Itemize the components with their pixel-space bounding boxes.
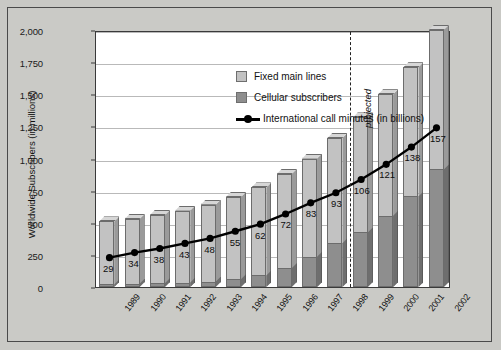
data-point-label: 43	[179, 249, 190, 260]
data-point-label: 29	[103, 263, 114, 274]
call-minutes-data-point	[307, 199, 314, 206]
call-minutes-data-point	[181, 240, 188, 247]
data-point-label: 106	[354, 185, 370, 196]
y-tick-label: 0	[38, 283, 43, 294]
plot-area: 29343843485562728393106121138157 project…	[95, 31, 450, 288]
data-point-label: 62	[255, 230, 266, 241]
call-minutes-data-point	[408, 144, 415, 151]
legend-label-fixed: Fixed main lines	[254, 71, 326, 82]
call-minutes-data-point	[433, 124, 440, 131]
call-minutes-data-point	[156, 245, 163, 252]
legend-label-cellular: Cellular subscribers	[254, 92, 342, 103]
call-minutes-data-point	[383, 161, 390, 168]
call-minutes-line	[109, 128, 436, 258]
legend-item-fixed-main-lines: Fixed main lines	[236, 68, 424, 85]
call-minutes-data-point	[232, 228, 239, 235]
call-minutes-data-point	[106, 254, 113, 261]
data-point-label: 93	[331, 198, 342, 209]
call-minutes-data-point	[358, 176, 365, 183]
call-minutes-data-point	[332, 189, 339, 196]
data-point-label: 48	[204, 244, 215, 255]
data-point-label: 121	[379, 169, 395, 180]
call-minutes-data-point	[131, 249, 138, 256]
data-point-label: 38	[154, 254, 165, 265]
call-minutes-data-point	[257, 221, 264, 228]
legend-swatch-cellular-icon	[236, 92, 247, 103]
legend-item-international-call-minutes: International call minutes (in billions)	[236, 110, 424, 127]
y-tick-label: 1,000	[20, 154, 43, 165]
data-point-label: 157	[430, 133, 446, 144]
call-minutes-data-point	[207, 235, 214, 242]
data-point-label: 72	[280, 219, 291, 230]
data-point-label: 34	[128, 258, 139, 269]
data-point-label: 55	[230, 237, 241, 248]
y-tick-label: 250	[27, 250, 43, 261]
legend-item-cellular-subscribers: Cellular subscribers	[236, 89, 424, 106]
legend-label-call-minutes: International call minutes (in billions)	[263, 113, 424, 124]
chart-figure: Worldwide Subscribers (in millions) 2,00…	[0, 0, 501, 350]
data-point-label: 83	[306, 208, 317, 219]
y-tick-label: 1,250	[20, 122, 43, 133]
legend-line-dot-icon	[236, 113, 260, 124]
y-tick-label: 500	[27, 218, 43, 229]
y-axis-ticks: 2,0001,7501,5001,2501,0007505002500	[0, 0, 95, 320]
legend-swatch-fixed-icon	[236, 71, 247, 82]
call-minutes-data-point	[282, 210, 289, 217]
y-tick-label: 1,500	[20, 90, 43, 101]
y-tick-label: 750	[27, 186, 43, 197]
y-tick-label: 1,750	[20, 58, 43, 69]
data-point-label: 138	[405, 152, 421, 163]
y-tick-label: 2,000	[20, 26, 43, 37]
chart-legend: Fixed main lines Cellular subscribers In…	[236, 68, 424, 131]
